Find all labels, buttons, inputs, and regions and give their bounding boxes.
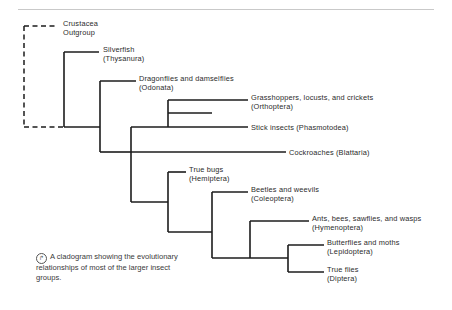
tip-common-name: Butterflies and moths <box>327 238 400 247</box>
tip-scientific-name: (Diptera) <box>327 274 359 283</box>
tip-scientific-name: (Orthoptera) <box>251 102 373 111</box>
tip-scientific-name: Outgroup <box>63 28 98 37</box>
tip-label-true-bugs: True bugs (Hemiptera) <box>189 165 230 183</box>
cladogram-figure: Crustacea Outgroup Silverfish (Thysanura… <box>0 0 452 310</box>
tip-label-ants-bees: Ants, bees, sawflies, and wasps (Hymenop… <box>312 214 421 232</box>
tip-common-name: Stick insects <box>251 123 294 132</box>
tip-scientific-name: (Hemiptera) <box>189 174 230 183</box>
tip-label-butterflies: Butterflies and moths (Lepidoptera) <box>327 238 400 256</box>
tip-label-grasshoppers: Grasshoppers, locusts, and crickets (Ort… <box>251 93 373 111</box>
tip-label-cockroaches: Cockroaches (Blattaria) <box>289 148 370 157</box>
tip-common-name: True bugs <box>189 165 223 174</box>
tip-scientific-name: (Odonata) <box>139 83 234 92</box>
tip-label-crustacea: Crustacea Outgroup <box>63 19 98 37</box>
figure-marker-icon: ↱ <box>36 253 47 264</box>
tip-common-name: Silverfish <box>103 45 134 54</box>
tip-common-name: Cockroaches <box>289 148 334 157</box>
tip-common-name: Crustacea <box>63 19 98 28</box>
tip-common-name: Grasshoppers, locusts, and crickets <box>251 93 373 102</box>
tip-common-name: Beetles and weevils <box>251 185 319 194</box>
tip-scientific-name: (Blattaria) <box>336 148 370 157</box>
tip-label-stick-insects: Stick insects (Phasmotodea) <box>251 123 349 132</box>
tip-common-name: Dragonflies and damselflies <box>139 74 234 83</box>
figure-caption: ↱A cladogram showing the evolutionary re… <box>36 252 186 284</box>
tip-scientific-name: (Phasmotodea) <box>296 123 348 132</box>
tip-scientific-name: (Coleoptera) <box>251 194 319 203</box>
tip-label-true-flies: True flies (Diptera) <box>327 265 359 283</box>
tip-scientific-name: (Lepidoptera) <box>327 247 400 256</box>
outgroup-branch-dashed <box>24 26 64 127</box>
figure-caption-text: A cladogram showing the evolutionary rel… <box>36 252 178 282</box>
tip-label-beetles: Beetles and weevils (Coleoptera) <box>251 185 319 203</box>
tip-scientific-name: (Thysanura) <box>103 54 144 63</box>
tip-label-silverfish: Silverfish (Thysanura) <box>103 45 144 63</box>
tip-label-dragonflies: Dragonflies and damselflies (Odonata) <box>139 74 234 92</box>
tip-common-name: Ants, bees, sawflies, and wasps <box>312 214 421 223</box>
tip-common-name: True flies <box>327 265 359 274</box>
tip-scientific-name: (Hymenoptera) <box>312 223 421 232</box>
